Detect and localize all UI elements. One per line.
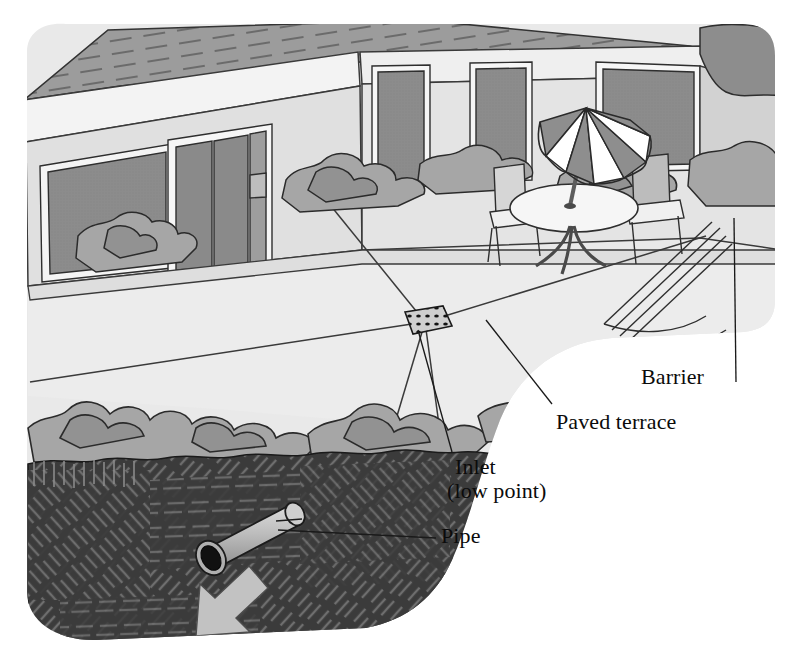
label-inlet: Inlet [455,455,496,479]
terrace-drainage-illustration [0,0,789,668]
label-inlet-sublabel: (low point) [447,479,546,503]
label-paved-terrace: Paved terrace [556,410,676,434]
soil-cross-section [28,450,514,668]
illustration-canvas: Barrier Paved terrace Inlet (low point) … [0,0,789,668]
label-pipe: Pipe [441,524,481,548]
label-barrier: Barrier [641,365,704,389]
umbrella-base [564,203,576,209]
illustration-body [0,0,789,668]
